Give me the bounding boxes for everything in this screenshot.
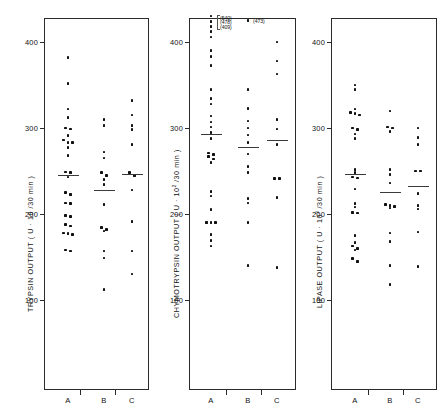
mean-line-chymotrypsin-C	[267, 140, 288, 141]
data-point	[276, 143, 279, 146]
data-point	[103, 178, 106, 181]
ytick-mark-trypsin-200	[40, 214, 44, 215]
data-point	[247, 141, 250, 144]
data-point	[64, 171, 67, 174]
data-point	[247, 197, 250, 200]
mean-line-lipase-A	[345, 174, 366, 175]
ytick-label-lipase-100: 100	[303, 296, 325, 305]
data-point	[64, 191, 67, 194]
ytick-label-trypsin-400: 400	[16, 38, 38, 47]
data-point	[62, 232, 65, 235]
data-point	[389, 240, 392, 243]
data-point	[105, 174, 108, 177]
figure-root: TRYPSIN OUTPUT ( U · 10 /30 min )4003002…	[0, 0, 445, 415]
ytick-mark-lipase-300	[327, 128, 331, 129]
xtick-label-lipase-A: A	[343, 396, 367, 405]
mean-line-chymotrypsin-B	[238, 147, 259, 148]
data-point	[210, 55, 213, 58]
data-point	[247, 165, 250, 168]
data-point	[210, 221, 213, 224]
data-point	[207, 152, 210, 155]
data-point	[205, 221, 208, 224]
ytick-mark-trypsin-400	[40, 42, 44, 43]
ytick-label-trypsin-100: 100	[16, 296, 38, 305]
data-point	[212, 158, 215, 161]
ytick-label-lipase-400: 400	[303, 38, 325, 47]
data-point	[210, 103, 213, 106]
data-point	[389, 264, 392, 267]
data-point	[100, 226, 103, 229]
xtick-mark-trypsin-0	[80, 390, 81, 395]
xtick-mark-lipase-1	[403, 390, 404, 395]
data-point	[103, 288, 106, 291]
xtick-mark-lipase-0	[368, 390, 369, 395]
data-point	[64, 127, 67, 130]
data-point	[131, 99, 134, 102]
data-point	[69, 171, 72, 174]
xtick-mark-trypsin-1	[115, 390, 116, 395]
data-point	[210, 239, 213, 242]
data-point	[393, 205, 396, 208]
data-point	[351, 176, 354, 179]
mean-line-trypsin-A	[58, 175, 79, 176]
data-point	[210, 25, 213, 28]
data-point	[64, 202, 67, 205]
xtick-label-chymotrypsin-B: B	[236, 396, 260, 405]
data-point	[356, 247, 359, 250]
data-point	[67, 146, 70, 149]
data-point	[67, 82, 70, 85]
mean-line-lipase-B	[380, 192, 401, 193]
data-point	[62, 139, 65, 142]
data-point	[354, 202, 357, 205]
data-point	[356, 260, 359, 263]
data-point	[69, 225, 72, 228]
data-point	[389, 283, 392, 286]
ytick-mark-lipase-100	[327, 300, 331, 301]
data-point	[278, 177, 281, 180]
data-point	[349, 111, 352, 114]
xtick-label-chymotrypsin-C: C	[265, 396, 289, 405]
data-point	[64, 214, 67, 217]
xtick-label-lipase-B: B	[378, 396, 402, 405]
data-point	[417, 136, 420, 139]
data-point	[276, 60, 279, 63]
data-point	[247, 171, 250, 174]
ytick-label-lipase-200: 200	[303, 210, 325, 219]
xtick-mark-chymotrypsin-1	[261, 390, 262, 395]
data-point	[384, 203, 387, 206]
data-point	[389, 130, 392, 133]
mean-line-lipase-C	[408, 186, 429, 187]
data-point	[67, 141, 70, 144]
data-point	[247, 19, 250, 22]
data-point	[69, 193, 72, 196]
data-point	[71, 233, 74, 236]
outlier-label-b: (473)	[253, 18, 265, 24]
xtick-label-trypsin-B: B	[92, 396, 116, 405]
ytick-label-chymotrypsin-100: 100	[161, 296, 183, 305]
data-point	[210, 20, 213, 23]
data-point	[67, 116, 70, 119]
data-point	[356, 177, 359, 180]
xtick-label-chymotrypsin-A: A	[199, 396, 223, 405]
data-point	[276, 196, 279, 199]
data-point	[351, 245, 354, 248]
mean-line-trypsin-B	[94, 190, 115, 191]
data-point	[103, 183, 106, 186]
ytick-mark-chymotrypsin-100	[185, 300, 189, 301]
ytick-mark-trypsin-300	[40, 128, 44, 129]
ytick-mark-chymotrypsin-200	[185, 214, 189, 215]
ytick-label-trypsin-300: 300	[16, 124, 38, 133]
ytick-label-chymotrypsin-400: 400	[161, 38, 183, 47]
axis-title-lipase: LIPASE OUTPUT ( U · 103 /30 min )	[314, 176, 324, 308]
ytick-mark-lipase-200	[327, 214, 331, 215]
data-point	[131, 128, 134, 131]
data-point	[273, 177, 276, 180]
data-point	[417, 265, 420, 268]
data-point	[247, 264, 250, 267]
data-point	[210, 233, 213, 236]
data-point	[67, 232, 70, 235]
plot-frame-chymotrypsin	[189, 18, 296, 390]
mean-line-trypsin-C	[122, 174, 143, 175]
axis-title-chymotrypsin: CHYMOTRYPSIN OUTPUT ( U · 102 /30 min )	[171, 149, 181, 318]
data-point	[131, 124, 134, 127]
